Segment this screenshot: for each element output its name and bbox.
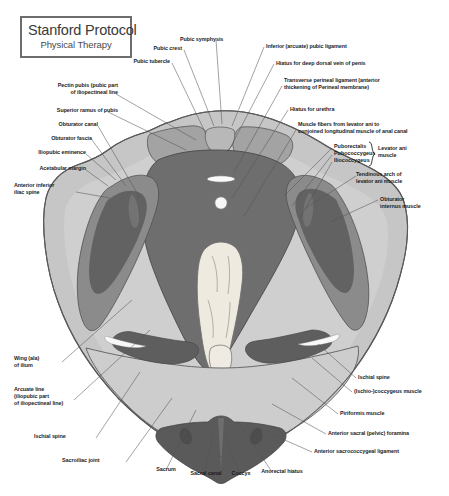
title-subtitle: Physical Therapy <box>28 39 124 50</box>
label-ischial-spine-left: Ischial spine <box>34 433 104 440</box>
title-main: Stanford Protocol <box>28 23 124 38</box>
label-arcuate-line: Arcuate line (iliopubic part of iliopect… <box>14 386 94 407</box>
label-anterior-inferior-iliac-spine: Anterior inferior iliac spine <box>14 182 94 196</box>
pelvic-anatomy-illustration <box>0 0 449 496</box>
label-obturator-canal: Obturator canal <box>8 121 98 128</box>
label-obturator-internus-muscle: Obturator internus muscle <box>380 196 449 210</box>
label-inferior-arcuate-pubic-ligament: Inferior (arcuate) pubic ligament <box>266 43 418 50</box>
label-ischial-spine-right: Ischial spine <box>358 374 428 381</box>
label-tendinous-arch-levator-ani: Tendinous arch of levator ani muscle <box>356 171 448 185</box>
label-anorectal-hiatus: Anorectal hiatus <box>252 468 312 475</box>
label-hiatus-for-urethra: Hiatus for urethra <box>290 106 410 113</box>
label-transverse-perineal-ligament: Transverse perineal ligament (anterior t… <box>284 77 440 91</box>
label-levator-ani-muscle: Levator ani muscle <box>378 145 438 159</box>
anatomy-figure-page: Stanford Protocol Physical Therapy Pecti… <box>0 0 449 496</box>
hiatus-for-urethra-opening <box>215 197 227 209</box>
label-superior-ramus-of-pubis: Superior ramus of pubis <box>8 107 118 114</box>
label-piriformis-muscle: Piriformis muscle <box>340 410 420 417</box>
label-anterior-sacral-foramina: Anterior sacral (pelvic) foramina <box>328 430 448 437</box>
label-wing-ala-of-ilium: Wing (ala) of ilium <box>14 355 84 369</box>
label-anterior-sacrococcygeal-ligament: Anterior sacrococcygeal ligament <box>314 448 444 455</box>
label-obturator-fascia: Obturator fascia <box>8 135 92 142</box>
label-acetabular-margin: Acetabular margin <box>6 165 86 172</box>
label-pectin-pubis: Pectin pubis (pubic part of iliopectinea… <box>8 82 118 96</box>
levator-ani-brace-icon <box>368 141 377 167</box>
label-pubic-tubercle: Pubic tubercle <box>106 58 170 65</box>
label-ischio-coccygeus-muscle: (Ischio-)coccygeus muscle <box>354 388 449 395</box>
label-pubic-symphysis: Pubic symphysis <box>180 36 256 43</box>
label-hiatus-deep-dorsal-vein: Hiatus for deep dorsal vein of penis <box>276 60 436 67</box>
hiatus-deep-dorsal-vein-opening <box>207 176 235 182</box>
title-box: Stanford Protocol Physical Therapy <box>20 16 132 58</box>
label-iliopubic-eminence: Iliopubic eminence <box>6 149 86 156</box>
label-muscle-fibers-levator-ani: Muscle fibers from levator ani to conjoi… <box>298 121 448 135</box>
label-sacroiliac-joint: Sacroiliac joint <box>62 457 138 464</box>
